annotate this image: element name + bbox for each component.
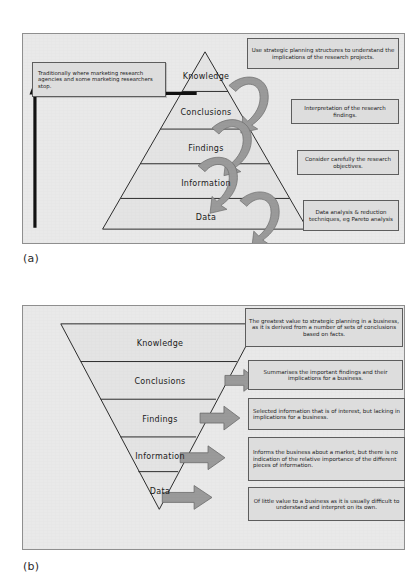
panel-a-caption: (a) bbox=[23, 252, 39, 265]
panel-a-tier-label-information: Information bbox=[181, 179, 231, 188]
figure-page: Knowledge Conclusions Findings Informati… bbox=[0, 0, 419, 584]
panel-b-tier-label-knowledge: Knowledge bbox=[137, 339, 184, 348]
note-interpretation: Interpretation of the research findings. bbox=[291, 99, 399, 124]
panel-a-tier-label-knowledge: Knowledge bbox=[183, 72, 230, 81]
panel-a-tier-label-data: Data bbox=[196, 213, 216, 222]
note-research-objectives: Consider carefully the research objectiv… bbox=[297, 150, 399, 175]
note-conclusions-summary: Summarises the important findings and th… bbox=[248, 360, 403, 390]
panel-b-caption: (b) bbox=[23, 560, 39, 573]
panel-b-tier-label-findings: Findings bbox=[142, 415, 177, 424]
note-knowledge-value: The greatest value to strategic planning… bbox=[245, 308, 403, 347]
note-data-little-value: Of little value to a business as it is u… bbox=[248, 487, 405, 521]
note-data-analysis: Data analysis & reduction techniques, eg… bbox=[303, 200, 399, 231]
panel-b-tier-label-data: Data bbox=[150, 487, 170, 496]
note-strategic-planning: Use strategic planning structures to und… bbox=[247, 38, 399, 69]
panel-a-tier-label-findings: Findings bbox=[188, 144, 223, 153]
panel-a-tier-label-conclusions: Conclusions bbox=[180, 108, 231, 117]
panel-b-tier-label-information: Information bbox=[135, 452, 185, 461]
note-findings-selected: Selected information that is of interest… bbox=[248, 398, 405, 430]
panel-b-tier-label-conclusions: Conclusions bbox=[134, 377, 185, 386]
note-traditional-stop: Traditionally where marketing research a… bbox=[32, 62, 166, 97]
note-information-market: Informs the business about a market, but… bbox=[248, 437, 405, 481]
